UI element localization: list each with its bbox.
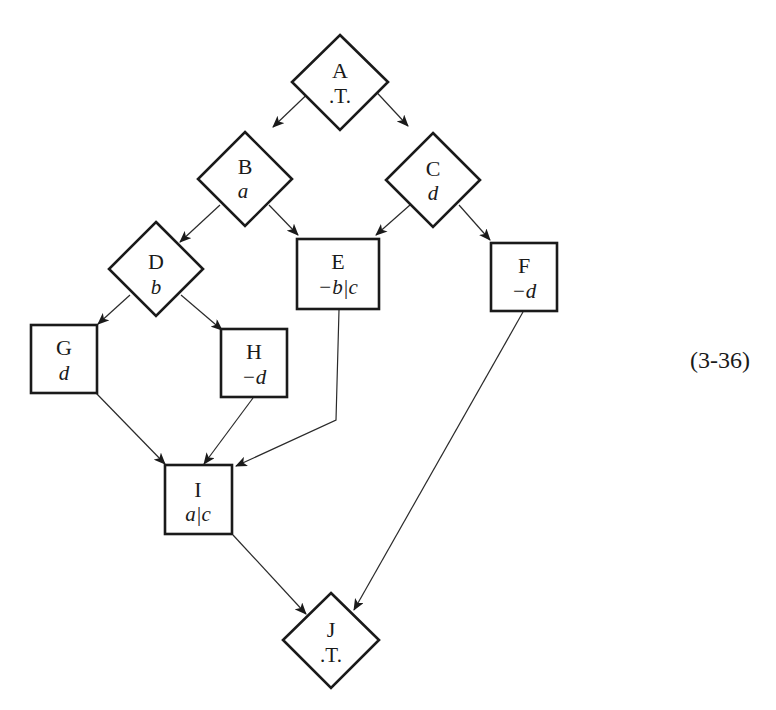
node-e-condition: −b|c [318,275,358,299]
node-e-name: E [331,250,344,274]
node-a-condition: .T. [329,84,351,108]
node-h-condition: −d [242,365,267,389]
edge-c-f [459,205,490,240]
node-j-condition: .T. [320,643,342,667]
node-f-condition: −d [512,279,537,303]
node-h-name: H [246,340,262,364]
node-b-condition: a [238,179,249,203]
flow-diagram [0,0,776,710]
edge-b-d [180,205,220,242]
node-g-name: G [56,336,72,360]
edge-d-g [98,295,130,324]
nodes [31,35,557,688]
node-g-condition: d [59,361,70,385]
node-f-name: F [518,254,530,278]
node-a-name: A [332,59,348,83]
equation-number: (3-36) [690,347,750,374]
node-c-name: C [426,157,441,181]
node-i-condition: a|c [185,502,211,526]
node-j-name: J [327,618,336,642]
edge-i-j [233,535,306,614]
edge-f-j [354,312,523,610]
edge-g-i [96,393,165,464]
node-b-name: B [238,155,253,179]
edge-d-h [181,295,222,330]
node-d-condition: b [151,275,162,299]
edge-c-e [376,205,410,235]
edge-b-e [269,205,298,235]
node-i-name: I [194,478,201,502]
node-d-name: D [148,250,164,274]
edge-h-i [204,398,253,464]
node-c-condition: d [428,181,439,205]
